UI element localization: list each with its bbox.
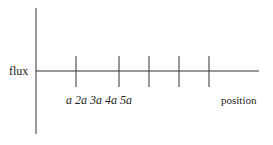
x-axis-label: position [221,94,257,106]
flux-position-diagram: flux a 2a 3a 4a 5a position [0,0,273,145]
tick-labels: a 2a 3a 4a 5a [66,93,132,107]
y-axis-label: flux [9,64,28,78]
